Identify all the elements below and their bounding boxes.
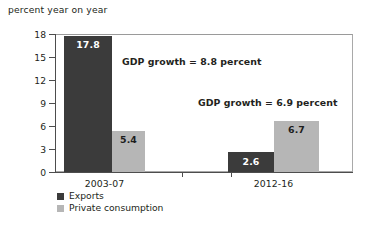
legend-label: Private consumption <box>69 203 163 212</box>
bar-value-label: 17.8 <box>64 39 112 50</box>
bar-private-consumption-2012-16: 6.7 <box>274 121 319 172</box>
legend-label: Exports <box>69 191 104 200</box>
y-tick-label-3: 3 <box>6 145 46 154</box>
legend-item-exports: Exports <box>57 190 163 202</box>
y-tick-18 <box>49 34 55 35</box>
y-axis-line <box>55 34 56 172</box>
bar-exports-2003-07: 17.8 <box>64 36 112 173</box>
y-tick-label-15: 15 <box>6 53 46 62</box>
y-tick-12 <box>49 80 55 81</box>
x-category-label-2: 2012-16 <box>228 178 319 189</box>
y-tick-6 <box>49 126 55 127</box>
x-tick-group-2 <box>231 172 232 177</box>
y-tick-0 <box>49 172 55 173</box>
y-tick-label-18: 18 <box>6 30 46 39</box>
bar-value-label: 2.6 <box>228 156 274 167</box>
bar-value-label: 6.7 <box>274 124 319 135</box>
bar-chart: percent year on year 18 15 12 9 6 3 0 17… <box>0 0 366 231</box>
x-category-label-1: 2003-07 <box>64 178 145 189</box>
bar-exports-2012-16: 2.6 <box>228 152 274 172</box>
y-tick-3 <box>49 149 55 150</box>
y-tick-label-0: 0 <box>6 168 46 177</box>
legend: Exports Private consumption <box>57 190 163 214</box>
y-tick-15 <box>49 57 55 58</box>
y-tick-label-9: 9 <box>6 99 46 108</box>
x-axis-line <box>55 172 353 173</box>
y-tick-9 <box>49 103 55 104</box>
annotation-gdp-growth-2003-07: GDP growth = 8.8 percent <box>122 56 261 67</box>
bar-value-label: 5.4 <box>112 134 145 145</box>
y-tick-label-6: 6 <box>6 122 46 131</box>
annotation-gdp-growth-2012-16: GDP growth = 6.9 percent <box>198 97 337 108</box>
legend-item-private-consumption: Private consumption <box>57 202 163 214</box>
y-tick-label-12: 12 <box>6 76 46 85</box>
y-axis-title: percent year on year <box>8 4 107 15</box>
legend-swatch-icon <box>57 205 64 212</box>
bar-private-consumption-2003-07: 5.4 <box>112 131 145 172</box>
x-tick-mid <box>182 172 183 177</box>
legend-swatch-icon <box>57 193 64 200</box>
